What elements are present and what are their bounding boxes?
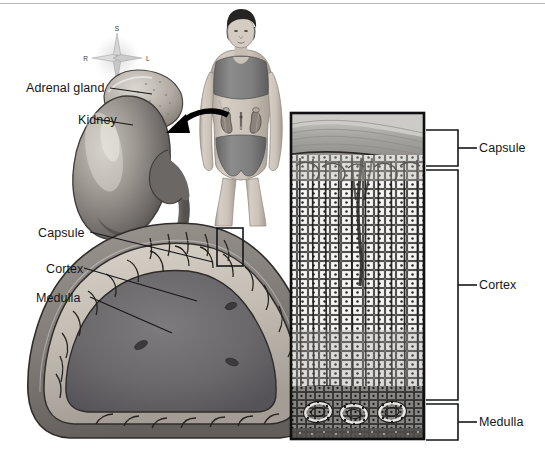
adrenal-gland-cross-section [28,223,316,438]
capsule-bracket [426,130,458,166]
label-histology-capsule: Capsule [479,141,526,155]
label-histology-cortex: Cortex [479,278,516,292]
label-adrenal-gland: Adrenal gland [26,81,104,95]
histology-cortex-zone [292,155,423,389]
label-cross-section-capsule: Capsule [38,226,85,240]
zone-brackets [426,130,477,440]
female-body-figure [200,9,283,226]
compass-label-superior: S [115,25,120,32]
label-histology-medulla: Medulla [479,415,523,429]
cortex-bracket [426,170,458,400]
label-cross-section-cortex: Cortex [46,262,83,276]
adrenal-histology-panel [291,113,424,439]
compass-label-left: L [146,55,150,62]
histology-medulla-zone [292,386,423,438]
compass-label-right: R [83,55,88,62]
label-kidney: Kidney [78,113,117,127]
medulla-bracket [426,404,458,440]
label-cross-section-medulla: Medulla [36,291,80,305]
